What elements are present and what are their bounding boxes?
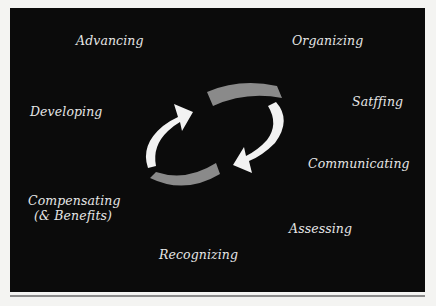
label-advancing: Advancing [76,33,144,48]
label-recognizing: Recognizing [159,247,238,262]
label-compensating: Compensating (& Benefits) [28,193,118,223]
label-staffing: Satffing [352,94,403,109]
label-organizing: Organizing [292,33,363,48]
page: Advancing Organizing Developing Satffing… [0,0,436,306]
label-developing: Developing [30,104,102,119]
cycle-arrow-right-white [233,102,284,173]
cycle-band-bottom-gray [150,163,220,186]
label-compensating-line1: Compensating [28,193,118,208]
label-assessing: Assessing [289,221,352,236]
label-communicating: Communicating [308,156,410,171]
cycle-arrow-left-white [146,104,193,168]
label-compensating-line2: (& Benefits) [28,208,118,223]
cycle-band-top-gray [207,83,282,106]
